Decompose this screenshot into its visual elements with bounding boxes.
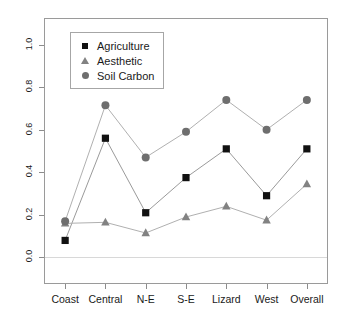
x-axis-tick-mark: [65, 284, 66, 289]
data-point-agriculture: [62, 237, 69, 244]
data-point-aesthetic: [222, 202, 230, 210]
data-point-agriculture: [182, 174, 189, 181]
y-axis-tick-label: 0.6: [24, 120, 34, 138]
data-point-soil-carbon: [303, 96, 311, 104]
data-point-soil-carbon: [61, 217, 69, 225]
legend-item: Soil Carbon: [78, 68, 154, 83]
legend-item-label: Agriculture: [97, 40, 150, 52]
y-axis-tick-label: 0.4: [24, 162, 34, 180]
y-axis-tick-label: 1.0: [24, 35, 34, 53]
data-point-agriculture: [303, 145, 310, 152]
data-point-soil-carbon: [222, 96, 230, 104]
circle-marker-icon-glyph: [82, 72, 89, 79]
y-axis-tick-label: 0.2: [24, 205, 34, 223]
data-point-soil-carbon: [263, 126, 271, 134]
x-axis-tick-mark: [226, 284, 227, 289]
x-axis-tick-label: Lizard: [212, 293, 241, 305]
data-point-soil-carbon: [182, 128, 190, 136]
x-axis-tick-mark: [186, 284, 187, 289]
triangle-marker-icon: [78, 57, 92, 64]
x-axis-tick-label: Overall: [290, 293, 323, 305]
data-point-agriculture: [263, 192, 270, 199]
x-axis-tick-label: N-E: [137, 293, 155, 305]
square-marker-icon: [78, 43, 92, 49]
data-point-agriculture: [102, 135, 109, 142]
data-point-soil-carbon: [101, 101, 109, 109]
x-axis-tick-mark: [105, 284, 106, 289]
data-point-agriculture: [142, 209, 149, 216]
x-axis-tick-label: West: [255, 293, 279, 305]
x-axis-tick-mark: [267, 284, 268, 289]
legend-item: Agriculture: [78, 38, 154, 53]
x-axis-tick-label: Coast: [51, 293, 78, 305]
data-point-agriculture: [223, 145, 230, 152]
square-marker-icon-glyph: [82, 43, 88, 49]
data-point-soil-carbon: [142, 153, 150, 161]
triangle-marker-icon-glyph: [81, 57, 89, 64]
series-line-agriculture: [65, 138, 307, 240]
x-axis-tick-mark: [307, 284, 308, 289]
y-axis-tick-label: 0.0: [24, 247, 34, 265]
circle-marker-icon: [78, 72, 92, 79]
legend-item: Aesthetic: [78, 53, 154, 68]
legend-item-label: Soil Carbon: [97, 70, 154, 82]
x-axis-tick-label: S-E: [177, 293, 195, 305]
chart-figure: Moran's I 0.00.20.40.60.81.0 CoastCentra…: [0, 0, 340, 324]
data-point-aesthetic: [101, 218, 109, 226]
data-point-aesthetic: [303, 179, 311, 187]
x-axis-tick-label: Central: [88, 293, 122, 305]
legend-item-label: Aesthetic: [97, 55, 142, 67]
chart-legend: AgricultureAestheticSoil Carbon: [70, 32, 164, 89]
y-axis-tick-label: 0.8: [24, 77, 34, 95]
series-line-soil-carbon: [65, 100, 307, 221]
x-axis-tick-mark: [146, 284, 147, 289]
